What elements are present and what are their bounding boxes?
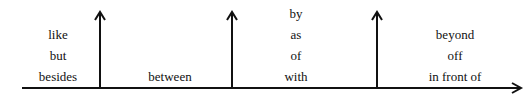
word: between [130,66,210,87]
word: beyond [405,24,505,45]
word-group-1: like but besides [22,24,94,87]
word: in front of [405,66,505,87]
word: by [266,3,326,24]
word: off [405,45,505,66]
word: but [22,45,94,66]
word: as [266,24,326,45]
word: like [22,24,94,45]
word: besides [22,66,94,87]
word-group-4: beyond off in front of [405,24,505,87]
word: with [266,66,326,87]
word: of [266,45,326,66]
word-group-3: by as of with [266,3,326,87]
word-group-2: between [130,66,210,87]
